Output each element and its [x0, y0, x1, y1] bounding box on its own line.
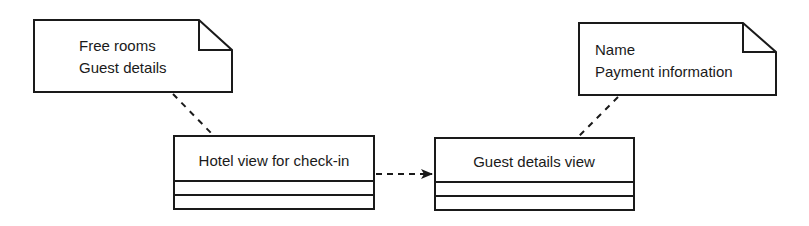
diagram-canvas: Free rooms Guest details Name Payment in…	[0, 0, 809, 226]
note-hotel-connector	[173, 94, 213, 135]
class-guest-view-name: Guest details view	[473, 153, 595, 170]
note-guest-connector	[578, 97, 618, 137]
class-hotel-view: Hotel view for check-in	[174, 136, 374, 209]
note-guest-line-1: Name	[595, 41, 635, 58]
class-guest-view: Guest details view	[435, 138, 634, 210]
note-guest: Name Payment information	[579, 23, 776, 95]
note-guest-line-2: Payment information	[595, 63, 733, 80]
class-hotel-view-name: Hotel view for check-in	[199, 152, 350, 169]
note-hotel-line-2: Guest details	[79, 59, 167, 76]
note-hotel: Free rooms Guest details	[34, 20, 232, 92]
note-hotel-line-1: Free rooms	[79, 37, 156, 54]
